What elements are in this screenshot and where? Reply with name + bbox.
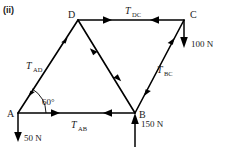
member-DB [78,20,135,113]
member-label-AD: T AD [26,60,43,73]
load-arrow-A [14,113,22,142]
truss-diagram-figure: (ii) D C A B T AD T DC T BC T AB 50 N 15… [0,0,226,147]
angle-label-A: 60° [42,97,55,107]
member-DC-arrow-head-right [103,16,112,24]
member-label-DC-symbol: T [125,5,132,16]
member-AB-arrow-head-left [103,109,112,117]
member-label-DC: T DC [125,5,141,18]
member-label-AB: T AB [71,119,88,132]
member-DB-line [78,20,135,113]
member-AD-arrow-head-a [29,91,35,97]
member-DC-arrow-head-left [150,16,159,24]
member-label-DC-subscript: DC [132,11,141,18]
figure-label: (ii) [3,5,14,15]
load-arrow-B [131,113,139,147]
truss-diagram-canvas: (ii) D C A B T AD T DC T BC T AB 50 N 15… [0,0,226,147]
member-DC [78,16,184,24]
load-label-A: 50 N [24,133,42,143]
member-AD-arrow-head-d [61,38,67,44]
load-label-C: 100 N [191,39,214,49]
node-label-C: C [190,9,197,20]
node-label-D: D [68,9,75,20]
load-arrow-B-head [131,113,139,124]
member-label-AD-symbol: T [26,60,33,71]
load-label-B: 150 N [141,119,164,129]
member-label-BC-symbol: T [157,64,164,75]
load-arrow-A-head [14,132,22,142]
member-BC-arrow-head-b [144,89,151,96]
member-label-AB-symbol: T [71,119,78,130]
member-label-AD-subscript: AD [33,66,43,73]
member-label-AB-subscript: AB [78,125,88,132]
member-AB-arrow-head-right [51,109,60,117]
member-label-BC-subscript: BC [164,70,173,77]
member-label-BC: T BC [157,64,173,77]
member-AB [18,109,135,117]
member-BC-arrow-head-c [168,38,175,45]
load-arrow-C-head [180,37,188,48]
node-label-A: A [7,108,15,119]
